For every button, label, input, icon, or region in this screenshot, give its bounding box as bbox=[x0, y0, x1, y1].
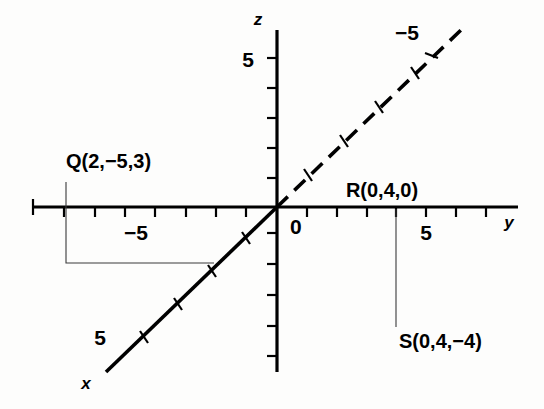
y-axis-label: y bbox=[503, 213, 515, 232]
x-tick-5-label: 5 bbox=[94, 326, 106, 349]
x-tick-neg5-label: −5 bbox=[395, 21, 419, 44]
coordinate-axes-figure: z 5 y 5 −5 0 x 5 −5 Q(2,−5,3) R(0,4,0) S… bbox=[0, 0, 544, 409]
x-axis-label: x bbox=[80, 374, 92, 393]
axes-svg: z 5 y 5 −5 0 x 5 −5 Q(2,−5,3) R(0,4,0) S… bbox=[0, 0, 544, 409]
z-axis-group bbox=[267, 30, 277, 372]
y-tick-5-label: 5 bbox=[420, 221, 432, 244]
point-label-r: R(0,4,0) bbox=[346, 179, 418, 201]
y-tick-neg5-label: −5 bbox=[124, 221, 148, 244]
z-tick-5-label: 5 bbox=[242, 48, 254, 71]
point-label-s: S(0,4,−4) bbox=[399, 330, 482, 352]
origin-label: 0 bbox=[290, 215, 302, 238]
x-tick-neg1 bbox=[304, 169, 312, 181]
point-label-q: Q(2,−5,3) bbox=[66, 150, 151, 172]
z-axis-label: z bbox=[253, 10, 263, 29]
